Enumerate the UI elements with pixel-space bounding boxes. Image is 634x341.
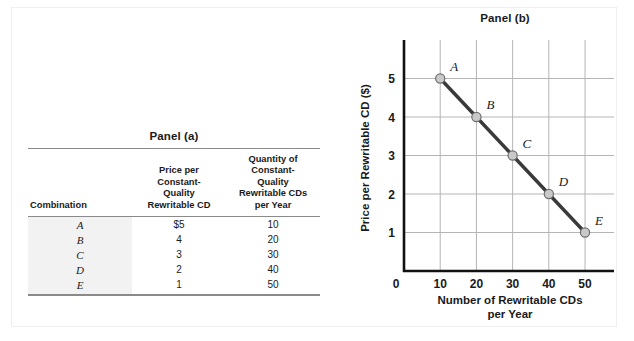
y-axis-title: Price per Rewritable CD ($) [359,84,371,232]
cell-price: 1 [132,278,226,295]
table-row: E 1 50 [28,278,320,295]
column-header-quantity-line-1: Quantity of [248,154,297,164]
x-axis-tick-label: 50 [578,277,592,291]
column-header-quantity: Quantity of Constant- Quality Rewritable… [226,149,320,217]
panel-b-chart-block: Panel (b) 12345 1020304050 0 ABCDE Price… [352,12,620,322]
panel-a-table-block: Panel (a) Combination Price per Constant… [28,130,320,296]
cell-quantity: 10 [226,217,320,233]
demand-schedule-table: Combination Price per Constant- Quality … [28,148,320,294]
cell-combination: C [28,247,132,262]
table-header-row: Combination Price per Constant- Quality … [28,149,320,217]
cell-quantity: 50 [226,278,320,295]
data-point-marker [508,151,517,160]
x-axis-title-line-1: Number of Rewritable CDs [437,294,582,306]
y-axis-tick-labels: 12345 [388,72,395,240]
data-point-label: A [449,59,458,74]
y-axis-tick-label: 2 [388,188,395,202]
x-axis-tick-label: 30 [506,277,520,291]
cell-price: $5 [132,217,226,233]
x-axis-title-line-2: per Year [487,308,533,320]
data-point-label: C [523,136,532,151]
cell-quantity: 40 [226,263,320,278]
table-row: B 4 20 [28,232,320,247]
column-header-price-line-4: Rewritable CD [147,200,210,210]
cell-combination: D [28,263,132,278]
data-point-marker [544,189,553,198]
x-axis-tick-label: 10 [434,277,448,291]
x-axis-tick-label: 40 [542,277,556,291]
data-point-marker [580,228,589,237]
cell-combination: B [28,232,132,247]
cell-quantity: 30 [226,247,320,262]
table-header: Combination Price per Constant- Quality … [28,149,320,217]
column-header-combination: Combination [28,149,132,217]
column-header-price-line-1: Price per [159,165,199,175]
origin-tick-label: 0 [393,277,400,291]
y-axis-tick-label: 1 [388,226,395,240]
table-body: A $5 10 B 4 20 C 3 30 D 2 40 [28,217,320,295]
data-point-label: B [486,97,494,112]
x-axis-tick-label: 20 [470,277,484,291]
cell-price: 2 [132,263,226,278]
demand-curve-chart: 12345 1020304050 0 ABCDE Price per Rewri… [352,12,620,322]
table-bottom-rule [28,294,320,296]
column-header-quantity-line-3: Quality [257,177,289,187]
column-header-quantity-line-5: per Year [255,200,292,210]
y-axis-tick-label: 5 [388,72,395,86]
column-header-quantity-line-4: Rewritable CDs [239,188,307,198]
data-point-marker [472,112,481,121]
table-row: C 3 30 [28,247,320,262]
cell-price: 3 [132,247,226,262]
table-row: D 2 40 [28,263,320,278]
column-header-price: Price per Constant- Quality Rewritable C… [132,149,226,217]
table-row: A $5 10 [28,217,320,233]
data-point-label: E [594,213,603,228]
cell-price: 4 [132,232,226,247]
cell-combination: E [28,278,132,295]
cell-quantity: 20 [226,232,320,247]
y-axis-tick-label: 4 [388,111,395,125]
column-header-quantity-line-2: Constant- [251,165,294,175]
column-header-price-line-2: Constant- [157,177,200,187]
figure-root: Panel (a) Combination Price per Constant… [0,0,634,341]
data-point-label: D [558,174,569,189]
x-axis-tick-labels: 1020304050 [434,277,593,291]
data-point-marker [436,74,445,83]
column-header-price-line-3: Quality [163,188,195,198]
panel-a-title: Panel (a) [28,130,320,142]
data-point-labels: ABCDE [449,59,603,228]
y-axis-tick-label: 3 [388,149,395,163]
cell-combination: A [28,217,132,233]
